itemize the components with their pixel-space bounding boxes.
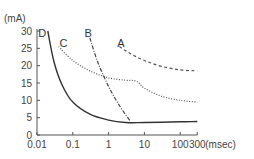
x-tick-label: 0.1 — [66, 139, 80, 150]
y-tick-label: 10 — [21, 95, 33, 106]
labels: ABCD — [38, 27, 125, 49]
curve-label-c: C — [60, 37, 68, 49]
curve-c — [59, 47, 198, 103]
curve-label-b: B — [85, 27, 92, 39]
y-tick-label: 20 — [21, 60, 33, 71]
curve-a — [119, 47, 197, 71]
x-tick-label: 0.01 — [27, 139, 47, 150]
x-tick-label: 100 — [172, 139, 189, 150]
curve-label-a: A — [117, 37, 125, 49]
x-tick-label: 1 — [106, 139, 112, 150]
y-tick-label: 5 — [26, 112, 32, 123]
x-tick-label: 300 — [189, 139, 206, 150]
y-tick-label: 15 — [21, 78, 33, 89]
chart: 0510152025300.010.1110100300(mA)(msec) A… — [0, 0, 254, 159]
y-tick-label: 25 — [21, 43, 33, 54]
x-axis-label: (msec) — [205, 139, 236, 150]
x-tick-label: 10 — [139, 139, 151, 150]
y-tick-label: 30 — [21, 26, 33, 37]
y-axis-label: (mA) — [4, 13, 26, 24]
curve-label-d: D — [38, 27, 46, 39]
